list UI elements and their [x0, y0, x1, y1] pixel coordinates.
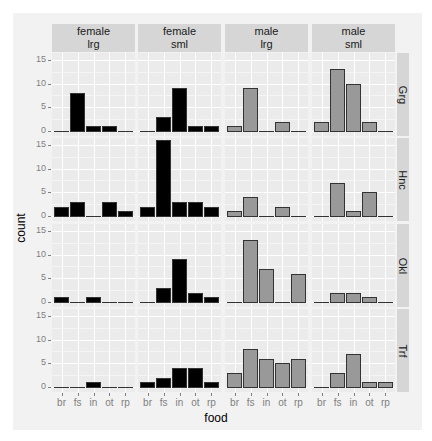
grid-line-vertical: [125, 224, 126, 307]
x-tick-mark: [235, 393, 236, 396]
y-tick-label: 10: [22, 249, 46, 259]
strip-sex-label: female: [163, 25, 196, 38]
x-tick-label: br: [314, 397, 330, 408]
grid-line-vertical: [211, 309, 212, 392]
y-tick-mark: [48, 60, 51, 61]
x-tick-mark: [354, 393, 355, 396]
bar: [70, 302, 84, 303]
grid-line-vertical: [148, 53, 149, 136]
bar: [70, 202, 84, 217]
grid-line-vertical: [235, 53, 236, 136]
grid-line-vertical: [385, 224, 386, 307]
bar: [70, 93, 84, 132]
bar: [259, 216, 273, 217]
bar: [172, 368, 186, 388]
x-tick-label: rp: [377, 397, 393, 408]
grid-line-vertical: [235, 138, 236, 221]
bar: [188, 368, 202, 388]
x-tick-mark: [211, 393, 212, 396]
facet-panel: [138, 309, 221, 392]
bar: [275, 122, 289, 133]
bar: [346, 354, 360, 388]
bar: [86, 126, 100, 132]
x-tick-label: in: [86, 397, 102, 408]
strip-row-label: Grg: [397, 85, 409, 103]
bar: [346, 211, 360, 217]
y-tick-label: 5: [22, 101, 46, 111]
bar: [346, 293, 360, 304]
bar: [346, 84, 360, 133]
bar: [54, 131, 68, 132]
x-tick-mark: [78, 393, 79, 396]
bar: [188, 293, 202, 304]
grid-line-vertical: [125, 309, 126, 392]
y-tick-mark: [48, 255, 51, 256]
bar: [172, 88, 186, 132]
bar: [156, 378, 170, 389]
bar: [314, 216, 328, 217]
bar: [156, 117, 170, 132]
grid-line-vertical: [94, 138, 95, 221]
x-tick-mark: [322, 393, 323, 396]
x-tick-label: rp: [117, 397, 133, 408]
grid-line-vertical: [109, 224, 110, 307]
x-tick-label: ot: [274, 397, 290, 408]
grid-line-vertical: [354, 138, 355, 221]
bar: [102, 387, 116, 388]
facet-panel: [225, 138, 308, 221]
grid-line-vertical: [385, 138, 386, 221]
x-tick-mark: [338, 393, 339, 396]
bar: [118, 302, 132, 303]
bar: [378, 302, 392, 303]
facet-panel: [52, 53, 135, 136]
bar: [188, 202, 202, 217]
facet-panel: [52, 309, 135, 392]
bar: [70, 387, 84, 388]
grid-line-vertical: [385, 309, 386, 392]
grid-line-vertical: [298, 53, 299, 136]
strip-row-label: Hnc: [397, 170, 409, 190]
x-tick-label: fs: [70, 397, 86, 408]
y-tick-mark: [48, 340, 51, 341]
x-tick-mark: [94, 393, 95, 396]
y-tick-mark: [48, 363, 51, 364]
bar: [204, 126, 218, 132]
bar: [140, 131, 154, 132]
grid-line-vertical: [195, 53, 196, 136]
bar: [227, 126, 241, 132]
y-tick-label: 15: [22, 54, 46, 64]
facet-strip-row: Okl: [397, 224, 409, 307]
facet-panel: [138, 138, 221, 221]
bar: [378, 131, 392, 132]
bar: [156, 288, 170, 303]
facet-panel: [312, 224, 395, 307]
y-tick-label: 10: [22, 163, 46, 173]
bar: [227, 211, 241, 217]
grid-line-vertical: [125, 138, 126, 221]
strip-sex-label: male: [255, 25, 279, 38]
facet-panel: [312, 53, 395, 136]
y-tick-mark: [48, 169, 51, 170]
x-tick-label: rp: [203, 397, 219, 408]
bar: [140, 207, 154, 218]
x-tick-mark: [195, 393, 196, 396]
grid-line-vertical: [235, 224, 236, 307]
y-tick-label: 10: [22, 334, 46, 344]
y-tick-label: 5: [22, 272, 46, 282]
grid-line-vertical: [385, 53, 386, 136]
bar: [140, 382, 154, 388]
bar: [275, 302, 289, 303]
bar: [54, 207, 68, 218]
bar: [259, 131, 273, 132]
strip-size-label: sml: [171, 38, 188, 51]
y-tick-mark: [48, 107, 51, 108]
grid-line-vertical: [211, 224, 212, 307]
grid-line-vertical: [322, 138, 323, 221]
grid-line-vertical: [148, 224, 149, 307]
strip-size-label: lrg: [87, 38, 99, 51]
grid-line-vertical: [94, 53, 95, 136]
grid-line-vertical: [78, 309, 79, 392]
facet-strip-column: malelrg: [225, 24, 308, 52]
strip-size-label: lrg: [260, 38, 272, 51]
bar: [102, 302, 116, 303]
